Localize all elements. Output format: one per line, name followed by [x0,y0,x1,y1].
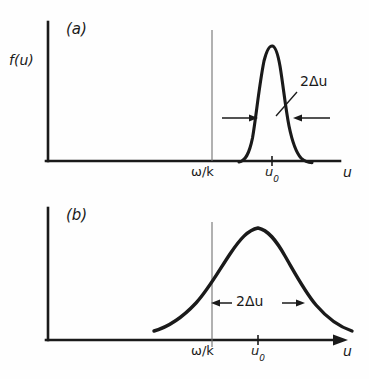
xtick-u0-a: u0 [265,165,279,182]
distribution-curve-a [239,46,312,163]
width-arrow-right-a [293,114,330,121]
xtick-u0-b-base: u [251,343,259,358]
width-annotation-a: 2Δu [300,74,327,88]
figure-container: (a) f(u) ω/k u0 u 2Δu [0,0,369,379]
width-arrow-left-b [211,299,232,306]
xtick-omega-over-k-a: ω/k [191,165,214,178]
panel-a: (a) f(u) ω/k u0 u 2Δu [0,0,369,190]
xtick-u0-b-subscript: 0 [259,353,265,363]
panel-b-label: (b) [66,208,87,223]
panel-a-plot [0,0,369,190]
panel-b: (b) ω/k u0 u 2Δu [0,190,369,379]
xtick-u0-b: u0 [251,344,265,361]
y-axis-label-a: f(u) [9,53,34,67]
x-axis-label-a: u [343,165,352,179]
xtick-omega-over-k-b: ω/k [191,344,214,357]
width-annotation-b: 2Δu [236,294,263,308]
x-axis-label-b: u [343,344,352,358]
width-arrow-left-a [222,114,258,121]
distribution-curve-b [154,228,352,331]
width-arrow-right-b [282,299,305,306]
xtick-u0-a-base: u [265,164,273,179]
panel-a-label: (a) [66,22,87,37]
panel-b-plot [0,190,369,379]
xtick-u0-a-subscript: 0 [273,174,279,184]
